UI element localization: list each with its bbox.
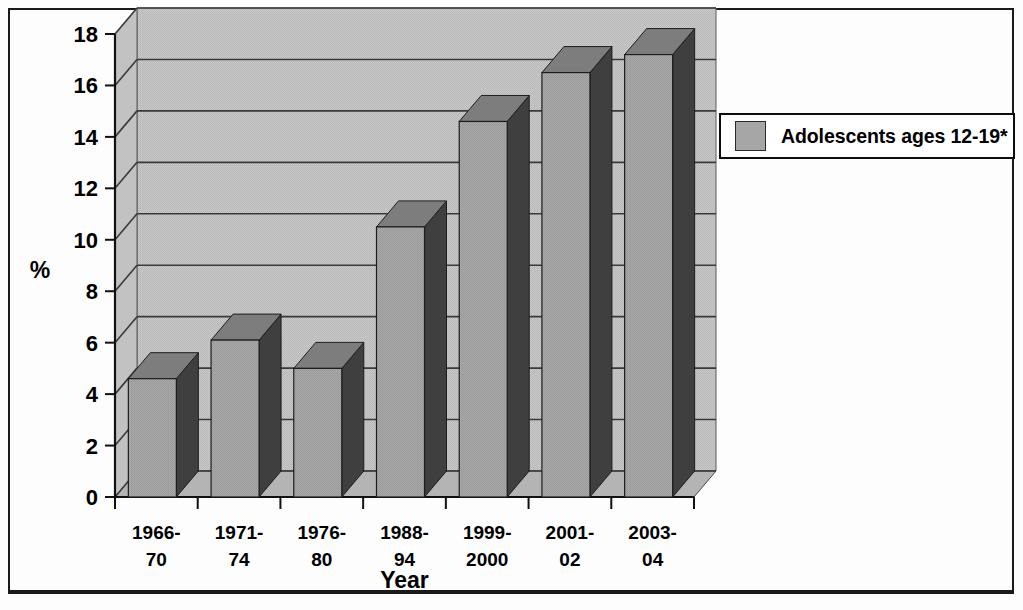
x-axis-category-label: 1999- xyxy=(463,522,512,543)
bar-front-face xyxy=(294,368,342,497)
bar-side-face xyxy=(590,47,612,497)
x-axis-category-label: 74 xyxy=(229,549,251,570)
x-axis-category-label: 70 xyxy=(146,549,167,570)
bar-side-face xyxy=(342,342,364,497)
x-axis-category-label: 04 xyxy=(642,549,664,570)
chart-figure: 0246810121416181966-701971-741976-801988… xyxy=(0,0,1023,610)
x-axis-category-label: 02 xyxy=(559,549,580,570)
y-axis-tick-label: 0 xyxy=(86,485,98,510)
x-axis-category-label: 2003- xyxy=(628,522,677,543)
y-axis-tick-label: 6 xyxy=(86,331,98,356)
legend-label-adolescents: Adolescents ages 12-19* xyxy=(781,125,1007,148)
bar-side-face xyxy=(259,314,281,497)
bar-group xyxy=(459,95,529,497)
x-axis-category-label: 80 xyxy=(311,549,332,570)
bar-front-face xyxy=(377,227,425,497)
bar-group xyxy=(128,353,198,497)
plot-area: 0246810121416181966-701971-741976-801988… xyxy=(30,8,716,593)
x-axis-category-label: 1966- xyxy=(132,522,181,543)
bar-front-face xyxy=(625,55,673,497)
bar-front-face xyxy=(459,121,507,497)
bar-group xyxy=(294,342,364,497)
bar-chart-svg: 0246810121416181966-701971-741976-801988… xyxy=(0,0,1023,610)
x-axis-category-label: 1976- xyxy=(297,522,346,543)
x-axis-category-label: 2001- xyxy=(546,522,595,543)
bar-side-face xyxy=(507,95,529,497)
bar-group xyxy=(377,201,447,497)
bar-front-face xyxy=(542,73,590,497)
y-axis-tick-label: 2 xyxy=(86,434,98,459)
y-axis-tick-label: 18 xyxy=(74,22,98,47)
y-axis-tick-label: 4 xyxy=(86,382,99,407)
y-axis-tick-label: 14 xyxy=(74,125,99,150)
y-axis-title: % xyxy=(30,257,50,283)
bar-group xyxy=(542,47,612,497)
y-axis-tick-label: 10 xyxy=(74,228,98,253)
bar-front-face xyxy=(211,340,259,497)
x-axis-category-label: 1988- xyxy=(380,522,429,543)
bar-group xyxy=(625,29,695,497)
y-axis-tick-label: 8 xyxy=(86,279,98,304)
chart-legend: Adolescents ages 12-19* xyxy=(719,113,1015,159)
x-axis-title: Year xyxy=(380,567,429,593)
bar-side-face xyxy=(425,201,447,497)
legend-swatch-adolescents xyxy=(735,121,766,151)
x-axis-category-label: 2000 xyxy=(466,549,508,570)
y-axis-tick-label: 16 xyxy=(74,73,98,98)
x-axis-category-label: 1971- xyxy=(215,522,264,543)
bar-front-face xyxy=(128,379,176,497)
y-axis-tick-label: 12 xyxy=(74,176,98,201)
bar-side-face xyxy=(673,29,695,497)
bar-group xyxy=(211,314,281,497)
